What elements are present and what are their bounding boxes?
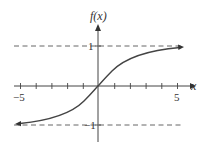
- y-axis-arrow-icon: [95, 24, 101, 31]
- y-tick-label-neg: −1: [84, 119, 96, 131]
- x-axis-label: x: [190, 79, 197, 93]
- x-tick-label-max: 5: [174, 91, 180, 103]
- y-axis-label: f(x): [90, 9, 107, 23]
- curve-right-arrow-icon: [178, 45, 184, 51]
- x-tick-label-min: −5: [13, 91, 25, 103]
- y-tick-label-pos: 1: [88, 40, 94, 52]
- function-graph: f(x) x −5 5 1 −1: [0, 0, 208, 150]
